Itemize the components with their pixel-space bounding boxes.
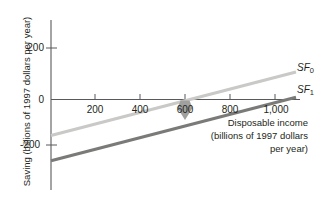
y-tick-label-neg200: -200 — [6, 139, 40, 151]
x-axis-title-line2: (billions of 1997 dollars — [158, 130, 308, 143]
x-tick-label-1000: 1,000 — [256, 104, 296, 116]
x-axis-title: Disposable income (billions of 1997 doll… — [158, 117, 308, 155]
x-axis-title-line3: per year) — [158, 143, 308, 156]
curve-label-sf0: SF0 — [297, 62, 314, 75]
x-axis-title-line1: Disposable income — [158, 117, 308, 130]
y-tick-label-200: 200 — [10, 42, 44, 54]
curve-label-sf0-name: SF — [297, 62, 310, 73]
curve-label-sf1: SF1 — [297, 84, 314, 97]
saving-function-chart: Saving (billions of 1997 dollars per yea… — [0, 0, 327, 207]
curve-label-sf1-subscript: 1 — [310, 88, 314, 97]
x-tick-label-600: 600 — [165, 104, 205, 116]
x-tick-label-800: 800 — [210, 104, 250, 116]
x-tick-label-200: 200 — [75, 104, 115, 116]
curve-label-sf0-subscript: 0 — [310, 66, 314, 75]
x-tick-label-400: 400 — [120, 104, 160, 116]
y-tick-label-0: 0 — [10, 94, 44, 106]
curve-label-sf1-name: SF — [297, 84, 310, 95]
